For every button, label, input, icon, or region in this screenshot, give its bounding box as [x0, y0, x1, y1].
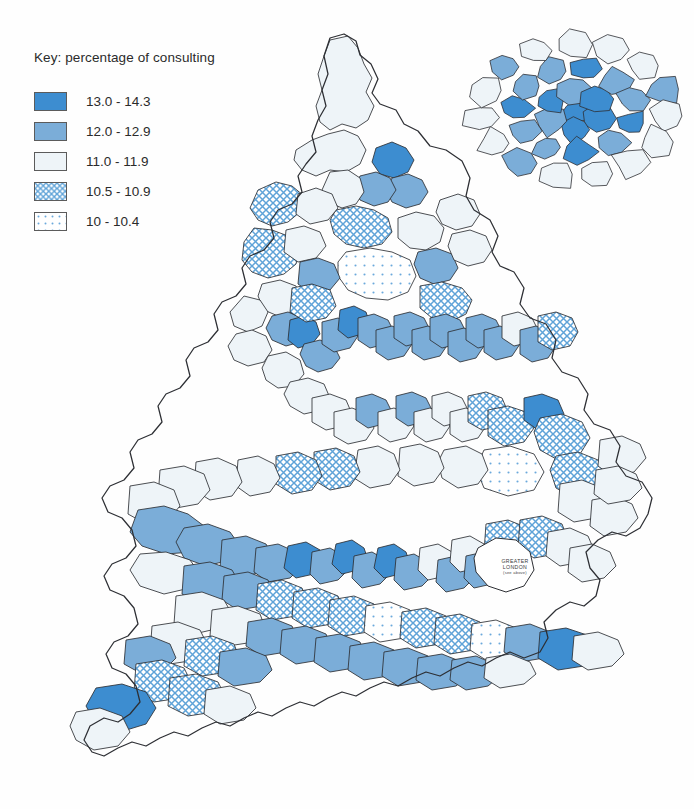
- map-region: [448, 230, 492, 266]
- greater-london-inset: [462, 29, 682, 188]
- map-region: [438, 446, 488, 488]
- inset-region: [513, 74, 539, 100]
- map-region: [338, 248, 416, 300]
- inset-region: [477, 127, 509, 155]
- map-region: [398, 212, 444, 250]
- legend-item-class-11-0-11-9: 11.0 - 11.9: [34, 147, 215, 175]
- inset-region: [532, 138, 561, 159]
- map-region: [284, 226, 326, 262]
- legend-swatch-class-12-0-12-9: [34, 122, 67, 141]
- map-region: [314, 448, 360, 490]
- inset-region: [509, 120, 542, 144]
- map-region: [294, 130, 366, 176]
- legend-label-class-12-0-12-9: 12.0 - 12.9: [86, 124, 151, 139]
- legend-label-class-13-0-14-3: 13.0 - 14.3: [86, 94, 151, 109]
- legend-swatch-class-10-5-10-9: [34, 182, 67, 201]
- legend-swatch-class-13-0-14-3: [34, 92, 67, 111]
- legend-label-class-11-0-11-9: 11.0 - 11.9: [86, 154, 149, 169]
- inset-region: [611, 150, 651, 180]
- map-legend: Key: percentage of consulting 13.0 - 14.…: [34, 50, 215, 237]
- inset-region: [616, 88, 651, 111]
- legend-item-class-10-5-10-9: 10.5 - 10.9: [34, 177, 215, 205]
- legend-title: Key: percentage of consulting: [34, 50, 215, 65]
- legend-item-class-10-10-4: 10 - 10.4: [34, 207, 215, 235]
- map-region: [436, 194, 480, 230]
- inset-region: [520, 39, 553, 61]
- inset-region: [627, 52, 658, 79]
- inset-region: [539, 163, 572, 188]
- legend-rows: 13.0 - 14.312.0 - 12.911.0 - 11.910.5 - …: [34, 87, 215, 235]
- map-region: [204, 686, 256, 724]
- map-region: [568, 544, 616, 582]
- legend-swatch-class-10-10-4: [34, 212, 67, 231]
- inset-region: [570, 58, 602, 78]
- legend-item-class-13-0-14-3: 13.0 - 14.3: [34, 87, 215, 115]
- legend-label-class-10-10-4: 10 - 10.4: [86, 214, 139, 229]
- map-region: [572, 632, 624, 670]
- map-region: [236, 456, 280, 496]
- inset-region: [490, 55, 519, 80]
- inset-region: [582, 162, 613, 187]
- map-region: [290, 284, 336, 322]
- legend-label-class-10-5-10-9: 10.5 - 10.9: [86, 184, 151, 199]
- inset-region: [462, 108, 499, 130]
- inset-region: [646, 76, 679, 103]
- map-region: [354, 446, 400, 488]
- inset-region: [501, 96, 536, 118]
- inset-region: [559, 29, 592, 58]
- inset-region: [617, 111, 644, 132]
- inset-region: [470, 78, 502, 108]
- map-region: [330, 206, 392, 248]
- map-region: [538, 312, 578, 350]
- legend-swatch-class-11-0-11-9: [34, 152, 67, 171]
- map-region: [398, 444, 444, 486]
- inset-regions-layer: [462, 29, 682, 188]
- inset-region: [502, 148, 537, 177]
- map-region: [250, 182, 304, 226]
- inset-region: [592, 35, 629, 64]
- legend-item-class-12-0-12-9: 12.0 - 12.9: [34, 117, 215, 145]
